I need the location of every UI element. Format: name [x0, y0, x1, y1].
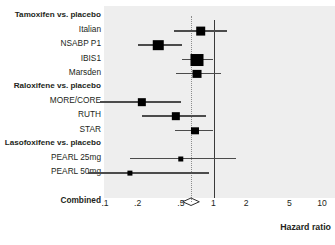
study-row-label: STAR [0, 124, 101, 134]
study-weight-marker [153, 41, 163, 51]
x-tick-label: 5 [287, 198, 292, 208]
study-weight-marker [191, 127, 199, 134]
study-row-label: PEARL 25mg [0, 152, 101, 162]
forest-row-italian [104, 24, 335, 38]
study-row-label: IBIS1 [0, 53, 101, 63]
forest-row-ibis1 [104, 53, 335, 67]
confidence-interval-line [88, 172, 208, 173]
study-row-label: NSABP P1 [0, 38, 101, 48]
group-heading-label: Lasofoxifene vs. placebo [0, 138, 101, 148]
study-row-label: Marsden [0, 67, 101, 77]
study-row-label: RUTH [0, 109, 101, 119]
x-tick-label: .5 [177, 198, 184, 208]
study-weight-marker [192, 70, 201, 78]
group-heading-label: Raloxifene vs. placebo [0, 81, 101, 91]
study-row-label: PEARL 50mg [0, 166, 101, 176]
group-heading-label: Tamoxifen vs. placebo [0, 10, 101, 20]
x-tick-label: .1 [101, 198, 108, 208]
forest-row-pearl-25mg [104, 152, 335, 166]
combined-row-label: Combined [0, 195, 101, 205]
forest-row-star [104, 124, 335, 138]
forest-plot-figure: Tamoxifen vs. placeboItalianNSABP P1IBIS… [0, 0, 335, 245]
x-axis-title: Hazard ratio [280, 222, 331, 232]
study-weight-marker [127, 171, 132, 176]
forest-row-nsabp-p1 [104, 38, 335, 52]
study-row-label: Italian [0, 24, 101, 34]
forest-row-ruth [104, 109, 335, 123]
x-tick-label: .2 [134, 198, 141, 208]
study-weight-marker [190, 54, 203, 66]
study-weight-marker [172, 113, 180, 121]
x-tick-label: 1 [211, 198, 216, 208]
row-label-column: Tamoxifen vs. placeboItalianNSABP P1IBIS… [0, 6, 101, 198]
forest-row-marsden [104, 67, 335, 81]
study-weight-marker [138, 98, 146, 106]
x-tick-label: 2 [244, 198, 249, 208]
forest-row-more-core [104, 95, 335, 109]
study-row-label: MORE/CORE [0, 95, 101, 105]
forest-row-pearl-50mg [104, 166, 335, 180]
study-weight-marker [196, 27, 206, 36]
study-weight-marker [178, 157, 183, 162]
x-tick-label: 10 [317, 198, 327, 208]
x-axis: .1.2.512510 [104, 198, 335, 212]
